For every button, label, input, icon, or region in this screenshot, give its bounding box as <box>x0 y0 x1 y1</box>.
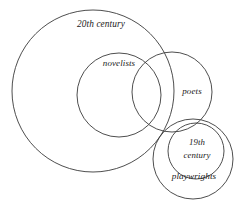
circle-twentieth-century[interactable] <box>12 10 174 172</box>
label-poets: poets <box>181 86 202 96</box>
venn-diagram-svg: 20th century novelists poets 19th centur… <box>0 0 238 200</box>
label-nineteenth-century-line1: 19th <box>189 137 206 147</box>
label-playwrights: playwrights <box>171 171 217 181</box>
label-novelists: novelists <box>103 58 136 68</box>
label-twentieth-century: 20th century <box>77 19 126 29</box>
label-nineteenth-century-line2: century <box>183 150 210 160</box>
venn-diagram-canvas: 20th century novelists poets 19th centur… <box>0 0 238 200</box>
